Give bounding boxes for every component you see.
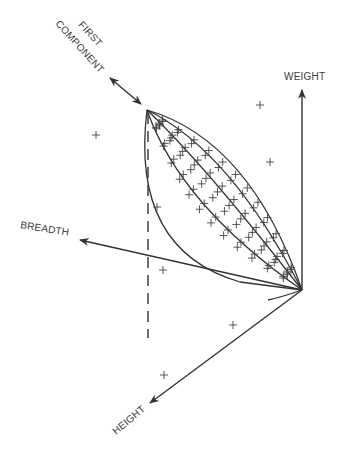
first-component-arrow: [110, 78, 141, 104]
height-label: HEIGHT: [110, 403, 147, 436]
height-axis: [150, 290, 302, 403]
weight-label: WEIGHT: [284, 71, 325, 82]
breadth-label: BREADTH: [20, 219, 70, 238]
data-ellipses: [145, 110, 302, 300]
data-points: [92, 101, 295, 379]
principal-component-diagram: WEIGHT BREADTH HEIGHT FIRST COMPONENT: [0, 0, 342, 460]
